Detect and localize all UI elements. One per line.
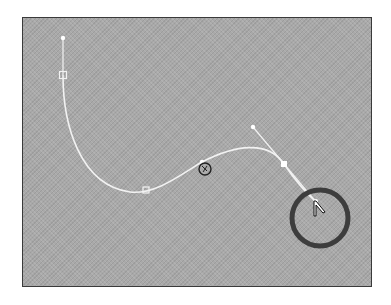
pointer-cursor-icon: [314, 201, 325, 216]
bezier-path[interactable]: [63, 75, 316, 202]
selected-anchor-handle-point[interactable]: [251, 125, 255, 129]
rotate-cursor-icon: [199, 163, 211, 175]
selected-anchor-handle-line: [253, 127, 284, 164]
highlight-ring: [292, 190, 348, 246]
path-editor-overlay: [0, 0, 391, 305]
selected-anchor[interactable]: [281, 161, 287, 167]
start-handle-point[interactable]: [61, 36, 65, 40]
